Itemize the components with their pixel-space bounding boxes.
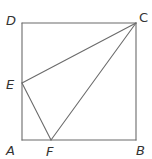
vertex-label-e: E bbox=[6, 77, 15, 92]
segment-cf bbox=[51, 23, 136, 140]
vertex-label-f: F bbox=[46, 144, 54, 159]
vertex-label-a: A bbox=[5, 143, 15, 158]
segment-ce bbox=[22, 23, 136, 83]
vertex-label-b: B bbox=[136, 143, 145, 158]
vertex-label-d: D bbox=[6, 13, 16, 28]
segment-ef bbox=[22, 83, 51, 140]
geometry-diagram: D C E A F B bbox=[0, 0, 152, 159]
vertex-label-c: C bbox=[139, 10, 148, 25]
